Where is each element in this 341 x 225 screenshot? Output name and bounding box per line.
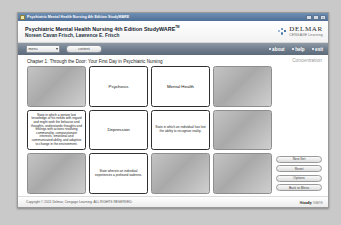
nav-links: about help exit bbox=[269, 47, 323, 52]
book-title-text: Psychiatric Mental Health Nursing 4th Ed… bbox=[25, 26, 175, 32]
nav-link-help[interactable]: help bbox=[292, 47, 305, 52]
trademark-symbol: TM bbox=[175, 25, 179, 29]
next-set-button[interactable]: Next Set bbox=[276, 156, 322, 163]
content-button[interactable]: content bbox=[66, 45, 102, 53]
game-card[interactable]: State wherein an individual experiences … bbox=[89, 153, 148, 194]
card-definition: State wherein an individual experiences … bbox=[91, 170, 146, 177]
copyright-text: Copyright © 2011 Delmar, Cengage Learnin… bbox=[26, 200, 299, 204]
game-card[interactable]: Psychosis bbox=[89, 66, 148, 107]
bullet-icon bbox=[269, 48, 271, 50]
options-button[interactable]: Options bbox=[276, 175, 322, 182]
game-card[interactable]: State in which a person lost knowledge o… bbox=[27, 110, 86, 151]
navigation-bar: menu content about help exit bbox=[18, 43, 328, 55]
card-definition: State in which a person lost knowledge o… bbox=[29, 114, 84, 146]
game-card[interactable] bbox=[213, 110, 272, 151]
studyware-logo-main: Study bbox=[299, 200, 312, 205]
studyware-logo: Study WARE bbox=[299, 200, 323, 205]
nav-link-about[interactable]: about bbox=[269, 47, 285, 52]
book-authors: Noreen Cavan Frisch, Lawrence E. Frisch bbox=[25, 33, 278, 38]
studyware-logo-sub: WARE bbox=[313, 201, 323, 205]
subheader: Chapter 1: Through the Door: Your First … bbox=[18, 55, 328, 64]
back-to-menu-button[interactable]: Back to Menu bbox=[276, 184, 322, 191]
chevron-down-icon bbox=[56, 48, 58, 50]
card-term: Mental Health bbox=[167, 84, 194, 89]
game-card[interactable] bbox=[27, 66, 86, 107]
app-footer: Copyright © 2011 Delmar, Cengage Learnin… bbox=[18, 196, 328, 207]
window-controls: _ □ × bbox=[306, 15, 326, 20]
game-card[interactable] bbox=[27, 153, 86, 194]
game-card[interactable]: Depression bbox=[89, 110, 148, 151]
app-header: Psychiatric Mental Health Nursing 4th Ed… bbox=[18, 21, 328, 43]
window-titlebar: Psychiatric Mental Health Nursing 4th Ed… bbox=[18, 13, 328, 21]
content-area: Chapter 1: Through the Door: Your First … bbox=[18, 55, 328, 196]
menu-dropdown[interactable]: menu bbox=[26, 45, 60, 53]
logo-name: DELMAR bbox=[289, 26, 323, 33]
application-window: Psychiatric Mental Health Nursing 4th Ed… bbox=[17, 12, 329, 208]
minimize-button[interactable]: _ bbox=[306, 15, 312, 20]
concentration-card-grid: Psychosis Mental Health State in which a… bbox=[27, 66, 272, 194]
header-text-block: Psychiatric Mental Health Nursing 4th Ed… bbox=[25, 25, 278, 38]
nav-link-help-label: help bbox=[295, 47, 304, 52]
nav-link-about-label: about bbox=[272, 47, 285, 52]
card-term: Psychosis bbox=[109, 84, 129, 89]
game-card[interactable]: Mental Health bbox=[151, 66, 210, 107]
game-controls-panel: Next Set Reset Options Back to Menu bbox=[276, 66, 322, 194]
game-card[interactable]: State in which an individual has lost th… bbox=[151, 110, 210, 151]
logo-tagline: CENGAGE Learning bbox=[289, 33, 323, 37]
reset-button[interactable]: Reset bbox=[276, 165, 322, 172]
nav-link-exit-label: exit bbox=[315, 47, 323, 52]
game-card[interactable] bbox=[213, 153, 272, 194]
window-title: Psychiatric Mental Health Nursing 4th Ed… bbox=[27, 15, 306, 19]
card-definition: State in which an individual has lost th… bbox=[153, 126, 208, 133]
close-button[interactable]: × bbox=[320, 15, 326, 20]
bullet-icon bbox=[292, 48, 294, 50]
maximize-button[interactable]: □ bbox=[313, 15, 319, 20]
book-title: Psychiatric Mental Health Nursing 4th Ed… bbox=[25, 25, 278, 32]
card-term: Depression bbox=[107, 127, 129, 132]
game-card[interactable] bbox=[151, 153, 210, 194]
menu-dropdown-value: menu bbox=[29, 47, 38, 51]
play-area: Psychosis Mental Health State in which a… bbox=[18, 64, 328, 196]
delmar-dots-icon bbox=[278, 27, 287, 36]
bullet-icon bbox=[312, 48, 314, 50]
game-card[interactable] bbox=[213, 66, 272, 107]
delmar-logo: DELMAR CENGAGE Learning bbox=[278, 26, 323, 38]
game-mode-label: Concentration bbox=[292, 58, 322, 63]
nav-link-exit[interactable]: exit bbox=[312, 47, 323, 52]
logo-text-block: DELMAR CENGAGE Learning bbox=[289, 26, 323, 38]
app-icon bbox=[20, 15, 25, 20]
